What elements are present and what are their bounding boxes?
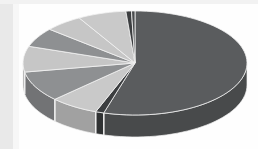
pie-chart-screenshot: Three dimensional pie chart with one dom… — [0, 0, 258, 149]
pie-slice-wall — [96, 112, 104, 135]
pie-chart-svg — [0, 0, 258, 149]
pie-chart — [0, 0, 258, 149]
pie-top-faces — [23, 11, 247, 115]
